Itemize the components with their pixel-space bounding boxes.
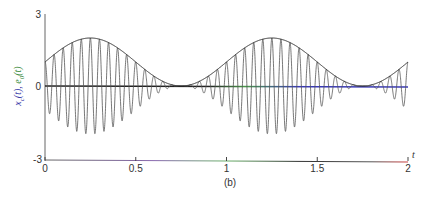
figure-caption: (b) bbox=[224, 177, 236, 188]
y-tick-label: -3 bbox=[33, 154, 42, 165]
x-tick-label: 0.5 bbox=[129, 163, 143, 174]
chart-plot: 3 0 -3 00.511.52 xc(t), e0(t) t (b) bbox=[0, 0, 434, 198]
x-tick-label: 1 bbox=[224, 163, 230, 174]
x-tick-label: 2 bbox=[405, 163, 411, 174]
y-tick-label: 0 bbox=[35, 81, 41, 92]
x-tick-label: 1.5 bbox=[310, 163, 324, 174]
x-ticks: 00.511.52 bbox=[42, 157, 411, 174]
envelope-line bbox=[45, 38, 408, 86]
x-tick-label: 0 bbox=[42, 163, 48, 174]
y-axis-label: xc(t), e0(t) bbox=[12, 66, 26, 107]
x-axis-label: t bbox=[412, 149, 415, 160]
y-tick-label: 3 bbox=[35, 9, 41, 20]
zero-line bbox=[45, 86, 408, 87]
